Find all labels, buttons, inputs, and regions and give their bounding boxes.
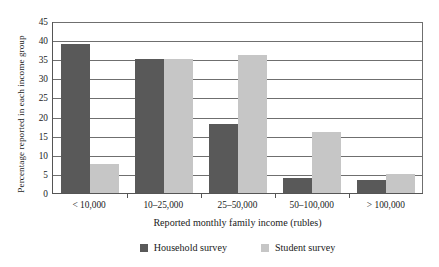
bar-household[interactable] (357, 180, 386, 193)
y-tick-label: 15 (28, 132, 48, 141)
y-axis-tick-labels: 454035302520151050 (28, 22, 48, 194)
x-tick-label: < 10,000 (52, 199, 126, 213)
x-tick-label: 10–25,000 (126, 199, 200, 213)
x-tick-label: 50–100,000 (275, 199, 349, 213)
x-tick-label: 25–50,000 (200, 199, 274, 213)
bar-group (53, 22, 127, 193)
x-tick-mark (349, 193, 350, 198)
legend-item-household-survey[interactable]: Household survey (140, 242, 227, 254)
legend-label: Household survey (154, 242, 227, 254)
legend-swatch-icon (261, 244, 269, 252)
x-tick-mark (127, 193, 128, 198)
y-tick-label: 5 (28, 170, 48, 179)
legend-label: Student survey (275, 242, 335, 254)
plot-area (52, 22, 423, 194)
x-tick-label: > 100,000 (349, 199, 423, 213)
bar-pair (349, 22, 423, 193)
y-tick-label: 0 (28, 190, 48, 199)
bar-pair (275, 22, 349, 193)
y-tick-label: 45 (28, 18, 48, 27)
bar-series-layer (53, 22, 423, 193)
bar-group (275, 22, 349, 193)
bar-student[interactable] (312, 132, 341, 193)
bar-group (127, 22, 201, 193)
bar-group (349, 22, 423, 193)
y-tick-label: 20 (28, 113, 48, 122)
bar-pair (127, 22, 201, 193)
x-axis-tick-labels: < 10,00010–25,00025–50,00050–100,000> 10… (52, 199, 423, 213)
y-tick-label: 30 (28, 75, 48, 84)
legend-item-student-survey[interactable]: Student survey (261, 242, 335, 254)
bar-student[interactable] (90, 164, 119, 193)
bar-household[interactable] (61, 44, 90, 193)
y-tick-label: 40 (28, 37, 48, 46)
y-tick-label: 25 (28, 94, 48, 103)
y-tick-label: 10 (28, 151, 48, 160)
chart-legend: Household surveyStudent survey (52, 240, 423, 256)
bar-pair (53, 22, 127, 193)
x-tick-mark (201, 193, 202, 198)
bar-household[interactable] (209, 124, 238, 193)
y-axis-title: Percentage reported in each income group (14, 14, 28, 214)
bar-student[interactable] (238, 55, 267, 193)
bar-household[interactable] (283, 178, 312, 193)
bar-chart-figure: Percentage reported in each income group… (0, 0, 439, 267)
bar-pair (201, 22, 275, 193)
x-tick-mark (275, 193, 276, 198)
y-tick-label: 35 (28, 56, 48, 65)
bar-student[interactable] (164, 59, 193, 193)
bar-student[interactable] (386, 174, 415, 193)
bar-group (201, 22, 275, 193)
legend-swatch-icon (140, 244, 148, 252)
x-axis-title: Reported monthly family income (rubles) (52, 216, 423, 229)
bar-household[interactable] (135, 59, 164, 193)
